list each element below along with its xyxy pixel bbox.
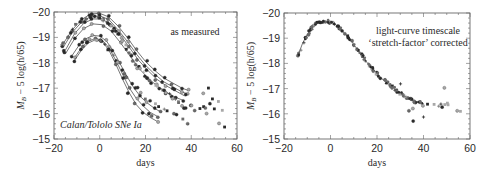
data-point <box>90 22 93 25</box>
data-point <box>343 32 346 35</box>
data-point <box>156 116 159 119</box>
data-point <box>125 76 128 79</box>
data-point <box>441 106 444 109</box>
template-light-curve <box>75 40 157 121</box>
data-point <box>413 100 416 103</box>
data-point <box>146 59 149 62</box>
data-point <box>396 89 399 92</box>
data-point <box>166 109 169 112</box>
data-point <box>407 109 410 112</box>
data-point <box>412 119 415 122</box>
data-point <box>73 37 76 40</box>
data-point <box>116 61 119 64</box>
data-point <box>144 98 147 101</box>
data-point <box>171 97 174 100</box>
data-point <box>127 45 130 48</box>
data-point <box>98 17 101 20</box>
data-point <box>145 69 148 72</box>
left-panel-as-measured: −200204060−20−19−18−17−16−15daysMB − 5 l… <box>15 6 243 168</box>
data-point <box>371 66 374 69</box>
data-point <box>211 98 214 101</box>
x-axis-title: days <box>368 157 386 168</box>
data-point <box>125 48 128 51</box>
data-point <box>106 48 109 51</box>
data-point <box>70 55 73 58</box>
data-point <box>362 54 365 57</box>
data-point <box>153 106 156 109</box>
x-tick-label: 40 <box>185 142 197 154</box>
data-point <box>221 109 224 112</box>
data-point <box>150 114 153 117</box>
data-point <box>321 21 324 24</box>
data-point <box>408 97 411 100</box>
x-tick-label: 20 <box>371 142 383 154</box>
data-point <box>355 48 358 51</box>
data-point <box>128 86 131 89</box>
data-point <box>330 21 333 24</box>
data-point <box>90 13 93 16</box>
data-point <box>377 75 380 78</box>
data-point <box>447 103 450 106</box>
y-tick-label: −17 <box>262 83 280 95</box>
y-tick-label: −15 <box>32 133 50 145</box>
data-point <box>205 112 208 115</box>
data-point <box>142 103 145 106</box>
data-point <box>186 122 189 125</box>
data-point <box>131 59 134 62</box>
data-point <box>135 58 138 61</box>
data-point <box>154 78 157 81</box>
data-point <box>208 102 211 105</box>
data-point <box>340 26 343 29</box>
data-point <box>202 92 205 95</box>
data-point <box>305 36 308 39</box>
data-point <box>126 92 129 95</box>
data-point <box>180 90 183 93</box>
data-point <box>456 109 459 112</box>
data-point <box>385 82 388 85</box>
data-point <box>164 84 167 87</box>
data-point <box>145 100 148 103</box>
data-point <box>63 51 66 54</box>
data-point <box>133 102 136 105</box>
data-point <box>79 48 82 51</box>
x-tick-label: 0 <box>328 142 334 154</box>
figure: −200204060−20−19−18−17−16−15daysMB − 5 l… <box>0 0 489 176</box>
data-point <box>437 105 440 108</box>
x-axis-title: days <box>136 157 154 168</box>
template-light-curve <box>72 35 161 112</box>
data-point <box>122 76 125 79</box>
data-point <box>149 82 152 85</box>
panel-annotation: ‘stretch-factor’ corrected <box>368 37 467 48</box>
data-point <box>180 87 183 90</box>
data-point <box>163 108 166 111</box>
data-point <box>134 63 137 66</box>
data-point <box>358 51 361 54</box>
data-point <box>127 40 130 43</box>
data-point <box>439 102 442 105</box>
data-point <box>311 25 314 28</box>
data-point <box>153 68 156 71</box>
data-point <box>217 100 220 103</box>
data-point <box>376 72 379 75</box>
data-point <box>157 105 160 108</box>
data-point <box>78 43 81 46</box>
data-point <box>106 17 109 20</box>
data-point <box>400 91 403 94</box>
data-point <box>348 38 351 41</box>
data-point <box>204 106 207 109</box>
data-point <box>112 27 115 30</box>
data-point <box>173 88 176 91</box>
data-point <box>102 25 105 28</box>
data-point <box>114 30 117 33</box>
data-point <box>316 21 319 24</box>
data-point <box>131 82 134 85</box>
data-point <box>99 39 102 42</box>
data-point <box>136 97 139 100</box>
data-point <box>193 109 196 112</box>
panel-annotation: light-curve timescale <box>376 25 461 36</box>
data-point <box>109 24 112 27</box>
data-point <box>177 101 180 104</box>
data-point <box>118 24 121 27</box>
x-tick-label: 40 <box>418 142 430 154</box>
data-point <box>149 99 152 102</box>
